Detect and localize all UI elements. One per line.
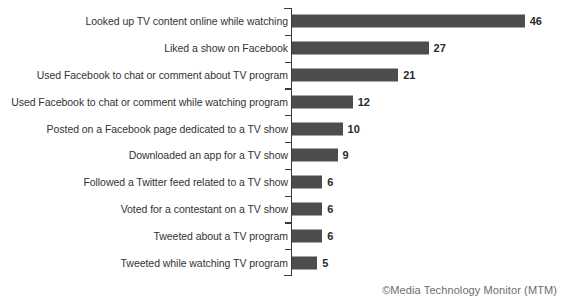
bar-category-label: Tweeted while watching TV program — [121, 257, 288, 269]
bar-category-label: Followed a Twitter feed related to a TV … — [83, 176, 288, 188]
bar-value-label: 27 — [434, 42, 446, 54]
bar-value-label: 9 — [343, 149, 349, 161]
bar-category-label: Posted on a Facebook page dedicated to a… — [47, 123, 288, 135]
bar-row: Tweeted about a TV program 6 — [0, 222, 565, 249]
bar-shape — [292, 122, 343, 135]
bar-value-label: 10 — [348, 123, 360, 135]
bar-chart-figure: Looked up TV content online while watchi… — [0, 0, 565, 300]
bar-rows-container: Looked up TV content online while watchi… — [0, 8, 565, 276]
bar-shape — [292, 149, 338, 162]
bar-shape — [292, 15, 525, 28]
bar-value-label: 21 — [403, 69, 415, 81]
bar-row: Used Facebook to chat or comment while w… — [0, 88, 565, 115]
bar-row: Downloaded an app for a TV show 9 — [0, 142, 565, 169]
bar-shape — [292, 176, 322, 189]
bar-category-label: Looked up TV content online while watchi… — [85, 15, 288, 27]
bar-category-label: Voted for a contestant on a TV show — [121, 203, 288, 215]
bar-row: Posted on a Facebook page dedicated to a… — [0, 115, 565, 142]
bar-shape — [292, 202, 322, 215]
bar-category-label: Downloaded an app for a TV show — [129, 149, 288, 161]
bar-row: Used Facebook to chat or comment about T… — [0, 62, 565, 89]
bar-shape — [292, 229, 322, 242]
bar-row: Voted for a contestant on a TV show 6 — [0, 196, 565, 223]
axis-tick — [285, 169, 292, 170]
bar-shape — [292, 68, 398, 81]
axis-tick — [285, 196, 292, 197]
bar-row: Tweeted while watching TV program 5 — [0, 249, 565, 276]
axis-tick — [285, 8, 292, 9]
chart-title — [200, 0, 460, 5]
bar-value-label: 46 — [530, 15, 542, 27]
bar-row: Looked up TV content online while watchi… — [0, 8, 565, 35]
bar-value-label: 6 — [327, 203, 333, 215]
bar-value-label: 12 — [358, 96, 370, 108]
bar-value-label: 5 — [322, 257, 328, 269]
bar-value-label: 6 — [327, 230, 333, 242]
axis-tick — [285, 88, 292, 89]
bar-shape — [292, 256, 317, 269]
bar-category-label: Tweeted about a TV program — [153, 230, 288, 242]
bar-value-label: 6 — [327, 176, 333, 188]
bar-shape — [292, 42, 429, 55]
axis-tick — [285, 222, 292, 223]
bar-shape — [292, 95, 353, 108]
bar-row: Liked a show on Facebook 27 — [0, 35, 565, 62]
bar-category-label: Liked a show on Facebook — [164, 42, 288, 54]
bar-category-label: Used Facebook to chat or comment about T… — [37, 69, 288, 81]
axis-tick — [285, 35, 292, 36]
bar-row: Followed a Twitter feed related to a TV … — [0, 169, 565, 196]
axis-tick — [285, 115, 292, 116]
axis-tick — [285, 249, 292, 250]
axis-tick — [285, 62, 292, 63]
bar-category-label: Used Facebook to chat or comment while w… — [11, 96, 288, 108]
attribution-text: ©Media Technology Monitor (MTM) — [382, 284, 557, 296]
axis-tick — [285, 142, 292, 143]
